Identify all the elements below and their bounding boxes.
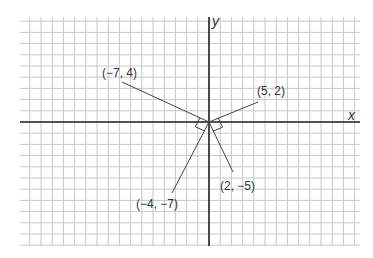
point-label-5-2: (5, 2) [257,84,285,98]
point-label-neg7-4: (−7, 4) [102,66,137,80]
point-label-neg4-neg7: (−4, −7) [136,197,178,211]
point-label-2-neg5: (2, −5) [220,179,255,193]
x-axis-label: x [347,107,356,123]
y-axis-label: y [211,13,220,29]
segments [122,82,258,193]
grid-lines [20,17,360,246]
coordinate-diagram: x y (−7, 4) (5, 2) (2, −5) (−4, −7) [0,0,373,258]
